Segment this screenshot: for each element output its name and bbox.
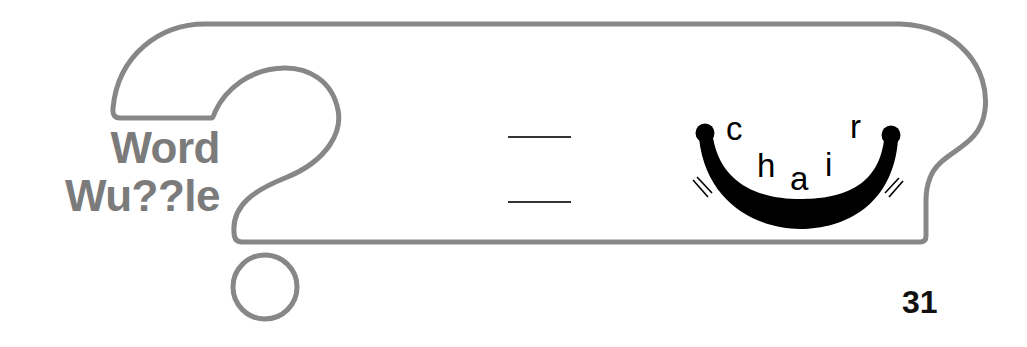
chair-icon	[0, 0, 1027, 347]
letter-c: c	[726, 112, 743, 145]
letter-h: h	[757, 149, 775, 182]
word-wuzzle-puzzle: Word Wu??le c h a i r 31	[0, 0, 1027, 347]
page-number: 31	[902, 285, 938, 319]
letter-i: i	[825, 148, 832, 181]
letter-a: a	[790, 162, 808, 195]
letter-r: r	[850, 110, 861, 143]
